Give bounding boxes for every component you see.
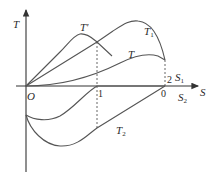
t1-label: T1: [144, 25, 154, 39]
curve-t1: [113, 21, 165, 60]
diagram-canvas: T O S 1 2 0 S1 S2 T' T1 T T2: [0, 0, 217, 179]
t2-label: T2: [116, 124, 126, 138]
curve-t2: [26, 86, 165, 146]
x-axis-label: S: [200, 86, 206, 98]
s1-label: S1: [175, 71, 185, 85]
curve-s2-upper: [26, 86, 165, 120]
tick-2: 2: [167, 74, 172, 85]
curve-t1-lower-line: [26, 31, 113, 86]
tick-0: 0: [161, 88, 166, 99]
tick-1: 1: [98, 88, 103, 99]
y-axis-label: T: [13, 18, 20, 30]
origin-label: O: [27, 90, 35, 102]
curve-t: [26, 55, 165, 86]
t-prime-label: T': [80, 21, 89, 33]
s2-label: S2: [178, 91, 188, 105]
t-label: T: [128, 48, 135, 60]
